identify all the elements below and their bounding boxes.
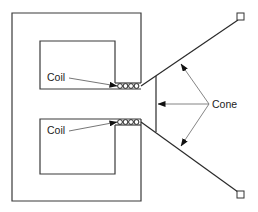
cone-suspension-bottom <box>237 191 244 198</box>
cone-arrow-lower <box>181 104 209 146</box>
coil-lower-arrow <box>69 122 117 131</box>
coil-upper-arrow <box>69 78 117 86</box>
coil-upper <box>118 84 139 89</box>
speaker-diagram: Coil Coil Cone <box>0 0 258 212</box>
coil-lower <box>118 120 139 125</box>
coil-upper-label: Coil <box>47 71 65 83</box>
magnet-core <box>12 13 141 201</box>
cone-suspension-top <box>237 13 244 20</box>
cone-label: Cone <box>212 98 237 110</box>
cone-arrow-upper <box>181 64 209 104</box>
coil-lower-label: Coil <box>47 124 65 136</box>
